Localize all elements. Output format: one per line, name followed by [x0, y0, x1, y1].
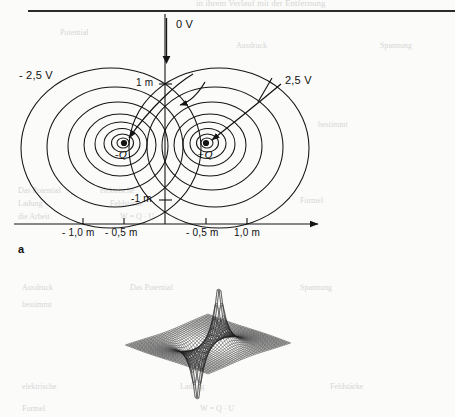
label-x-tick-neg-0-5m: - 0,5 m — [105, 227, 138, 238]
label-y-tick-1m: 1 m — [136, 77, 153, 88]
mesh-col — [199, 339, 282, 370]
contour-pos-3-5v — [147, 87, 283, 207]
label-y-tick-neg1m: -1 m — [131, 193, 152, 204]
positive-charge-marker — [203, 140, 209, 146]
mesh-col — [202, 341, 285, 372]
figure-a-equipotential-plot: 0 V - 2,5 V 2,5 V 1 m -1 m - 1,0 m - 0,5… — [0, 12, 330, 244]
mesh-col — [135, 318, 218, 349]
negative-charge-marker — [121, 140, 127, 146]
label-left-potential: - 2,5 V — [19, 69, 53, 81]
label-zero-volt: 0 V — [176, 18, 193, 30]
label-positive-charge: +Q — [197, 148, 212, 160]
zero-volt-arrow — [163, 18, 171, 64]
mesh-wireframe — [125, 289, 290, 399]
equipotential-svg — [0, 12, 330, 244]
ghost-word: Spannung — [380, 41, 412, 50]
label-x-tick-neg-1-0m: - 1,0 m — [62, 227, 95, 238]
figure-page: in ihrem Verlauf mit der Entfernung Ausd… — [0, 0, 455, 417]
leader-cross-tick — [258, 78, 272, 102]
surface-mesh-svg — [38, 252, 378, 417]
label-negative-charge: -Q — [115, 148, 127, 160]
label-x-tick-pos-1-0m: 1,0 m — [234, 227, 260, 238]
label-right-potential: 2,5 V — [285, 74, 312, 86]
figure-b-potential-surface — [38, 252, 378, 417]
figure-a-label: a — [18, 243, 24, 255]
label-x-tick-pos-0-5m: - 0,5 m — [186, 227, 219, 238]
ghost-header-text: in ihrem Verlauf mit der Entfernung — [196, 0, 326, 8]
contour-neg-3-5v — [47, 87, 183, 207]
mesh-col — [131, 316, 214, 347]
